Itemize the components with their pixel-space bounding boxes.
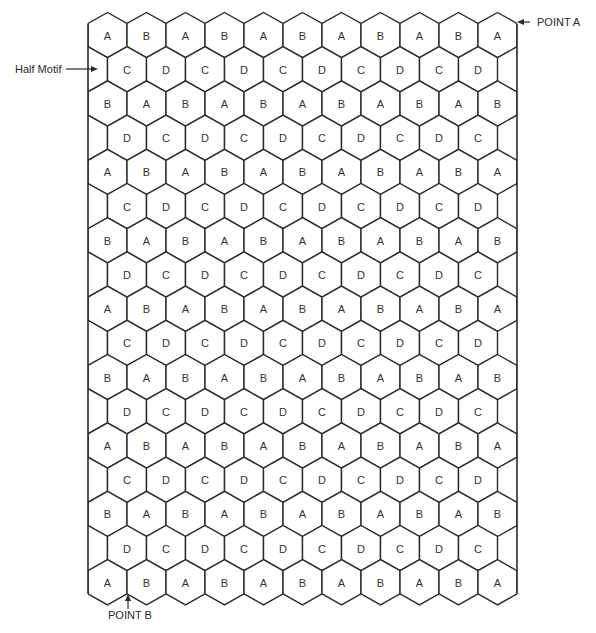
hexagon-motif-grid: ABABABABABACDCDCDCDCDBABABABABABDCDCDCDC… xyxy=(0,0,596,633)
hex-cell-label: B xyxy=(182,98,189,110)
hex-cell-label: B xyxy=(338,508,345,520)
hex-cell-label: B xyxy=(455,440,462,452)
hex-cell-label: C xyxy=(279,337,287,349)
hex-cell-label: A xyxy=(416,30,424,42)
hex-cell-label: A xyxy=(221,235,229,247)
hex-cell-label: D xyxy=(162,64,170,76)
hex-cell-label: D xyxy=(123,543,131,555)
hex-cell-label: A xyxy=(494,577,502,589)
hex-cell-label: D xyxy=(474,337,482,349)
hex-cell-label: C xyxy=(474,132,482,144)
hex-cell-label: A xyxy=(143,235,151,247)
hex-cell-label: B xyxy=(299,440,306,452)
hex-cell-label: A xyxy=(416,166,424,178)
hex-cell-label: B xyxy=(260,508,267,520)
hex-cell-label: A xyxy=(182,440,190,452)
hex-cell-label: D xyxy=(435,269,443,281)
hex-cell-label: C xyxy=(123,64,131,76)
hex-cell-label: D xyxy=(435,406,443,418)
hex-cell-label: B xyxy=(338,235,345,247)
hex-cell-label: C xyxy=(162,543,170,555)
hex-cell-label: A xyxy=(494,303,502,315)
hex-cell-label: B xyxy=(221,303,228,315)
hex-cell-label: B xyxy=(104,372,111,384)
hex-cell-label: B xyxy=(299,166,306,178)
hex-cell-label: D xyxy=(279,543,287,555)
hex-cell-label: B xyxy=(494,98,501,110)
hex-cell-label: A xyxy=(377,235,385,247)
hex-cell-label: D xyxy=(123,406,131,418)
hex-cell-label: D xyxy=(318,474,326,486)
hex-cell-label: D xyxy=(240,474,248,486)
hex-cell-label: B xyxy=(299,577,306,589)
hex-cell-label: B xyxy=(221,30,228,42)
hex-cells: ABABABABABACDCDCDCDCDBABABABABABDCDCDCDC… xyxy=(69,13,518,605)
hex-cell-label: D xyxy=(201,269,209,281)
hex-cell-label: A xyxy=(104,577,112,589)
hex-cell-label: C xyxy=(396,543,404,555)
hex-cell-label: C xyxy=(162,406,170,418)
hex-cell-label: A xyxy=(416,303,424,315)
hex-cell-label: A xyxy=(338,166,346,178)
hex-cell-label: C xyxy=(318,543,326,555)
hex-cell-label: C xyxy=(162,269,170,281)
hex-cell-label: B xyxy=(104,235,111,247)
hex-cell-label: A xyxy=(104,30,112,42)
hex-cell-label: D xyxy=(279,132,287,144)
hex-cell-label: C xyxy=(123,474,131,486)
hex-cell-label: B xyxy=(416,508,423,520)
hex-cell-label: A xyxy=(299,98,307,110)
hex-cell-label: D xyxy=(357,132,365,144)
hex-cell-label: A xyxy=(260,30,268,42)
hex-cell-label: D xyxy=(396,474,404,486)
hex-cell-label: A xyxy=(260,166,268,178)
hex-cell-label: B xyxy=(221,166,228,178)
hex-cell-label: C xyxy=(123,337,131,349)
hex-cell-label: D xyxy=(318,337,326,349)
hex-cell-label: B xyxy=(260,372,267,384)
hex-cell-label: A xyxy=(455,508,463,520)
hex-cell-label: D xyxy=(396,64,404,76)
hex-cell-label: A xyxy=(182,303,190,315)
hex-cell-label: A xyxy=(260,577,268,589)
hex-cell-label: C xyxy=(201,64,209,76)
hex-cell-label: A xyxy=(455,235,463,247)
hex-cell-label: D xyxy=(162,474,170,486)
hex-cell-label: B xyxy=(260,235,267,247)
hex-cell-label: C xyxy=(435,474,443,486)
hex-cell-label: A xyxy=(494,166,502,178)
hex-cell-label: D xyxy=(162,201,170,213)
hex-cell-label: B xyxy=(143,303,150,315)
hex-cell-label: D xyxy=(474,64,482,76)
hex-cell-label: C xyxy=(396,406,404,418)
hex-cell-label: B xyxy=(455,303,462,315)
hex-cell-label: A xyxy=(494,30,502,42)
hex-cell-label: D xyxy=(435,543,443,555)
hex-cell-label: C xyxy=(201,474,209,486)
hex-cell-label: D xyxy=(357,543,365,555)
hex-cell-label: D xyxy=(474,474,482,486)
hex-cell-label: C xyxy=(474,543,482,555)
hex-cell-label: D xyxy=(435,132,443,144)
hex-cell-label: B xyxy=(416,372,423,384)
hex-cell-label: A xyxy=(494,440,502,452)
hex-cell-label: D xyxy=(474,201,482,213)
hex-cell-label: C xyxy=(474,406,482,418)
hex-cell-label: B xyxy=(221,577,228,589)
hex-cell-label: D xyxy=(357,269,365,281)
hex-cell-label: B xyxy=(104,508,111,520)
hex-cell-label: B xyxy=(299,303,306,315)
hex-cell-label: A xyxy=(104,303,112,315)
hex-cell-label: B xyxy=(455,577,462,589)
hex-cell-label: C xyxy=(240,132,248,144)
hex-cell-label: C xyxy=(318,406,326,418)
hex-cell-label: D xyxy=(201,406,209,418)
hex-cell-label: B xyxy=(416,98,423,110)
hex-cell-label: A xyxy=(143,372,151,384)
hex-cell-label: C xyxy=(357,201,365,213)
hex-cell-label: A xyxy=(143,98,151,110)
hex-cell-label: D xyxy=(318,64,326,76)
hex-cell-label: C xyxy=(123,201,131,213)
hex-cell-label: A xyxy=(416,577,424,589)
hex-cell-label: B xyxy=(221,440,228,452)
